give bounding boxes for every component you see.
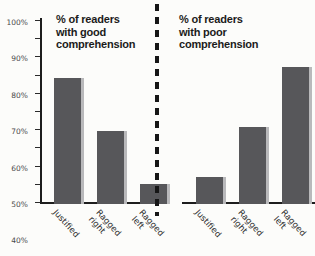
bar [282,67,309,204]
bar [239,127,266,204]
y-axis-line-left [40,18,42,204]
y-tick-mark: 20% [35,166,40,167]
y-tick-mark: 10% [35,184,40,185]
y-tick-mark: 40% [35,129,40,130]
y-tick-mark: 0% [35,202,40,203]
category-label: Ragged left [272,208,308,245]
y-tick-mark: 30% [35,147,40,148]
panel-poor-comprehension: % of readers with poor comprehension Jus… [160,0,315,256]
y-tick-mark: 70% [35,75,40,76]
plot-area-good: 100%90%80%70%60%50%40%30%20%10%0% Justif… [40,18,150,204]
y-tick-label: 40% [11,236,28,245]
y-tick-mark: 80% [35,56,40,57]
y-tick-label: 90% [11,54,28,63]
y-tick-label: 80% [11,90,28,99]
category-label: Ragged right [87,208,123,245]
category-label: Ragged right [229,208,265,245]
y-tick-mark: 50% [35,111,40,112]
bar [54,78,81,204]
y-tick-mark: 60% [35,93,40,94]
panel-good-comprehension: % of readers with good comprehension 100… [0,0,155,256]
y-tick-mark: 90% [35,38,40,39]
panel-divider-dashed [155,4,159,216]
y-tick-mark: 100% [35,20,40,21]
bar [97,131,124,204]
y-tick-label: 70% [11,127,28,136]
category-label: Justified [193,208,223,240]
y-tick-label: 60% [11,163,28,172]
plot-area-poor: JustifiedRagged rightRagged left [182,18,292,204]
chart-page: % of readers with good comprehension 100… [0,0,315,256]
y-tick-label: 50% [11,200,28,209]
bar [196,177,223,204]
y-tick-label: 100% [7,18,28,27]
category-label: Justified [51,208,81,240]
